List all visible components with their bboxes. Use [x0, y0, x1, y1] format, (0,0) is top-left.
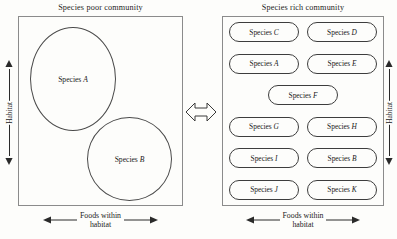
species-pill-c: Species C — [229, 22, 299, 42]
species-pill-g: Species G — [229, 117, 299, 137]
species-pill-a: Species A — [229, 54, 299, 74]
species-ellipse-a-label: Species A — [58, 75, 88, 84]
left-panel-title: Species poor community — [18, 3, 183, 12]
species-ellipse-b-label: Species B — [115, 155, 145, 164]
habitat-axis-right: Habitat — [381, 60, 397, 165]
arrow-left-icon — [246, 215, 280, 225]
pill-row: Species G Species H — [229, 117, 377, 137]
species-pill-h: Species H — [307, 117, 377, 137]
pill-row: Species J Species K — [229, 180, 377, 200]
species-pill-f: Species F — [268, 85, 338, 105]
species-ellipse-b: Species B — [87, 117, 172, 201]
species-pill-d: Species D — [307, 22, 377, 42]
pill-row: Species F — [229, 85, 377, 105]
pill-row: Species C Species D — [229, 22, 377, 42]
foods-axis-right: Foods within habitat — [222, 203, 384, 237]
species-pill-i: Species I — [229, 148, 299, 168]
foods-axis-left: Foods within habitat — [18, 203, 183, 237]
arrow-right-icon — [326, 215, 360, 225]
habitat-axis-left-label: Habitat — [5, 101, 14, 125]
species-pill-e: Species E — [307, 54, 377, 74]
habitat-axis-right-label: Habitat — [385, 101, 394, 125]
species-poor-community-box: Species A Species B — [18, 16, 183, 206]
habitat-axis-left: Habitat — [1, 60, 17, 165]
species-pill-k: Species K — [307, 180, 377, 200]
species-pill-list: Species C Species D Species A Species E … — [229, 22, 377, 200]
arrow-left-icon — [43, 215, 77, 225]
right-panel-title: Species rich community — [222, 3, 384, 12]
pill-row: Species I Species B — [229, 148, 377, 168]
species-pill-j: Species J — [229, 180, 299, 200]
pill-row: Species A Species E — [229, 54, 377, 74]
species-ellipse-a: Species A — [30, 27, 116, 131]
species-pill-b: Species B — [307, 148, 377, 168]
foods-axis-left-label: Foods within habitat — [77, 211, 124, 230]
arrow-right-icon — [124, 215, 158, 225]
double-headed-arrow-icon — [185, 100, 217, 124]
species-community-diagram: Species poor community Species rich comm… — [0, 0, 397, 239]
foods-axis-right-label: Foods within habitat — [280, 211, 327, 230]
